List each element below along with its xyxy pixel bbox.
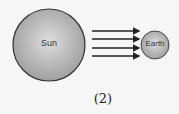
sunlight-arrows bbox=[92, 31, 139, 56]
figure-caption: (2) bbox=[88, 91, 118, 106]
sun-label: Sun bbox=[34, 38, 64, 48]
earth-label: Earth bbox=[141, 39, 169, 48]
